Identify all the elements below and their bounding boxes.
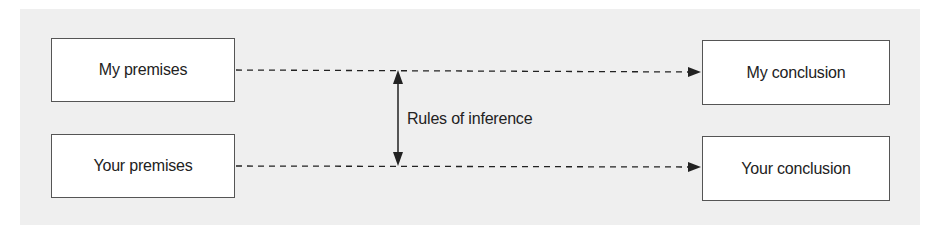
- dashed-arrow-bottom: [236, 162, 701, 172]
- rules-of-inference-label: Rules of inference: [407, 110, 532, 128]
- double-arrow-icon: [393, 70, 403, 166]
- dashed-arrow-top: [236, 67, 701, 77]
